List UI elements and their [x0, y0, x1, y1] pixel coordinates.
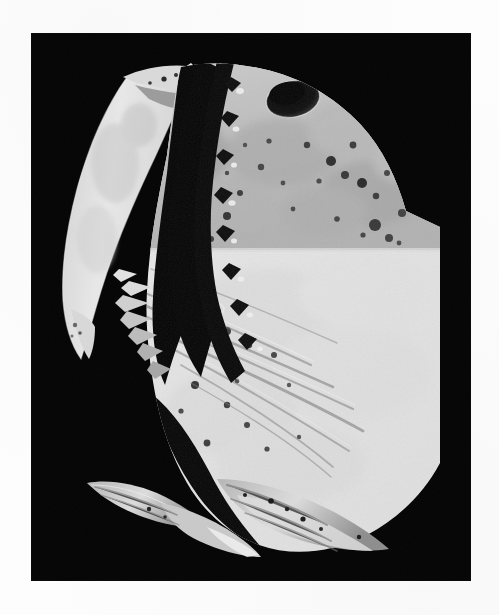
moon-stage — [31, 33, 471, 581]
plate-grain — [31, 33, 471, 581]
scanned-photo-page: Phobos Viking Orbiter photomosaic Stickn… — [0, 0, 499, 615]
photograph-frame — [31, 33, 471, 581]
phobos-photomosaic — [31, 33, 471, 581]
